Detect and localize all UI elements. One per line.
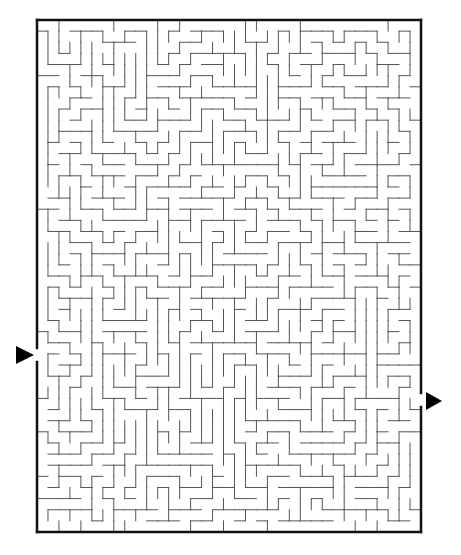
- maze-walls: [37, 20, 421, 532]
- maze-canvas: [0, 0, 461, 555]
- start-arrow-icon: [16, 346, 34, 364]
- end-arrow-icon: [426, 392, 442, 410]
